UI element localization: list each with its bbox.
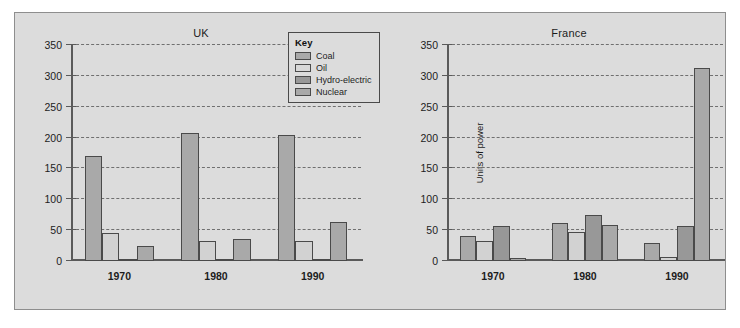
bar-group-1990: 1990	[644, 45, 710, 261]
y-axis-tick	[66, 44, 76, 45]
y-axis-tick	[442, 260, 452, 261]
y-axis-tick	[66, 137, 76, 138]
y-axis-tick	[442, 75, 452, 76]
y-axis-tick	[442, 137, 452, 138]
y-axis-tick	[442, 106, 452, 107]
y-axis-tick	[442, 198, 452, 199]
y-axis-tick-label: 100	[420, 193, 438, 205]
y-axis-tick-label: 0	[56, 255, 62, 267]
bar-hydro-1990	[313, 259, 330, 261]
bar-nuclear-1980	[602, 225, 619, 261]
y-axis-tick	[66, 198, 76, 199]
bar-coal-1990	[278, 135, 295, 262]
y-axis-tick-label: 350	[44, 39, 62, 51]
y-axis-tick-label: 250	[44, 101, 62, 113]
legend-item-oil: Oil	[295, 63, 374, 73]
bar-group-1970: 1970	[460, 45, 526, 261]
legend-swatch-coal-icon	[295, 52, 311, 60]
y-axis-tick	[442, 44, 452, 45]
x-axis-label-1970: 1970	[460, 270, 526, 282]
legend-rows: CoalOilHydro-electricNuclear	[295, 51, 374, 97]
y-axis-tick	[66, 260, 76, 261]
bar-nuclear-1970	[510, 258, 527, 261]
bar-nuclear-1980	[233, 239, 250, 261]
bar-group-1980: 1980	[181, 45, 251, 261]
bar-oil-1970	[476, 241, 493, 261]
y-axis-tick-label: 50	[50, 224, 62, 236]
y-axis-tick	[66, 167, 76, 168]
legend-label: Hydro-electric	[316, 75, 372, 85]
x-axis-label-1980: 1980	[181, 270, 251, 282]
y-axis-tick-label: 0	[432, 255, 438, 267]
legend-swatch-hydro-icon	[295, 76, 311, 84]
bar-oil-1980	[199, 241, 216, 261]
y-axis-tick-label: 150	[420, 162, 438, 174]
bar-hydro-1970	[493, 226, 510, 261]
legend-label: Coal	[316, 51, 335, 61]
legend-swatch-nuclear-icon	[295, 88, 311, 96]
y-axis-tick	[66, 75, 76, 76]
bar-nuclear-1970	[137, 246, 154, 261]
bar-hydro-1980	[585, 215, 602, 261]
y-axis-tick-label: 350	[420, 39, 438, 51]
figure-root: UK 050100150200250300350197019801990 Fra…	[0, 0, 740, 328]
legend-item-hydro: Hydro-electric	[295, 75, 374, 85]
x-axis-label-1970: 1970	[85, 270, 155, 282]
bar-hydro-1990	[677, 226, 694, 261]
bar-hydro-1970	[119, 259, 136, 261]
legend-item-coal: Coal	[295, 51, 374, 61]
y-axis-tick-label: 200	[44, 132, 62, 144]
legend-key-box: Key CoalOilHydro-electricNuclear	[288, 32, 380, 103]
y-axis-tick-label: 150	[44, 162, 62, 174]
bar-oil-1970	[102, 233, 119, 261]
legend-label: Oil	[316, 63, 327, 73]
y-axis-tick	[442, 167, 452, 168]
bar-oil-1990	[660, 257, 677, 261]
bar-coal-1990	[644, 243, 661, 262]
chart-france-plot: Units of power 0501001502002503003501970…	[447, 45, 723, 261]
bar-coal-1970	[460, 236, 477, 261]
y-axis-tick-label: 200	[420, 132, 438, 144]
y-axis-tick	[66, 229, 76, 230]
chart-france-title: France	[385, 27, 740, 39]
legend-title: Key	[295, 37, 374, 48]
bar-oil-1980	[568, 232, 585, 261]
legend-label: Nuclear	[316, 87, 347, 97]
x-axis-label-1990: 1990	[644, 270, 710, 282]
y-axis-tick	[66, 106, 76, 107]
y-axis-tick-label: 100	[44, 193, 62, 205]
y-axis-tick-label: 250	[420, 101, 438, 113]
bar-coal-1970	[85, 156, 102, 261]
bar-nuclear-1990	[330, 222, 347, 261]
bar-group-1980: 1980	[552, 45, 618, 261]
bar-nuclear-1990	[694, 68, 711, 261]
y-axis-tick-label: 300	[420, 70, 438, 82]
bar-oil-1990	[295, 241, 312, 261]
y-axis-tick	[442, 229, 452, 230]
bar-group-1970: 1970	[85, 45, 155, 261]
x-axis-label-1980: 1980	[552, 270, 618, 282]
y-axis-tick-label: 300	[44, 70, 62, 82]
chart-france: France Units of power 050100150200250300…	[385, 13, 737, 309]
legend-swatch-oil-icon	[295, 64, 311, 72]
bar-hydro-1980	[216, 259, 233, 261]
y-axis-tick-label: 50	[426, 224, 438, 236]
legend-item-nuclear: Nuclear	[295, 87, 374, 97]
x-axis-label-1990: 1990	[278, 270, 348, 282]
figure-panel: UK 050100150200250300350197019801990 Fra…	[14, 12, 726, 310]
bar-coal-1980	[181, 133, 198, 261]
bar-coal-1980	[552, 223, 569, 261]
